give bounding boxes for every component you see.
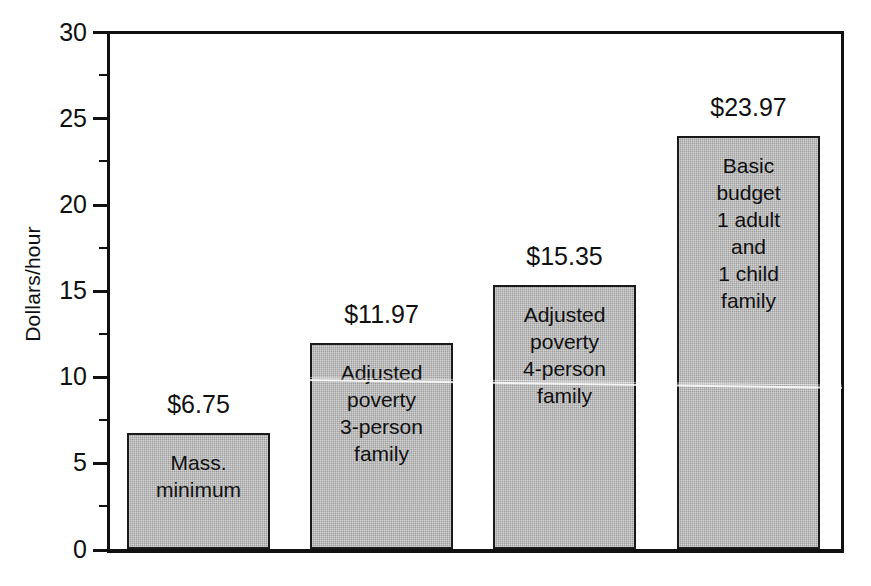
bar-1[interactable]: Mass. minimum [127, 433, 270, 549]
bar-inner-label-2: Adjusted poverty 3-person family [312, 359, 451, 467]
y-tick-label-10: 10 [31, 364, 87, 389]
y-tick-mark-25 [93, 117, 108, 120]
bar-inner-label-4: Basic budget 1 adult and 1 child family [679, 152, 818, 314]
bar-2[interactable]: Adjusted poverty 3-person family [310, 343, 453, 549]
y-tick-label-30: 30 [31, 20, 87, 45]
axis-frame-right [841, 31, 844, 552]
bar-value-label-2: $11.97 [310, 302, 453, 327]
bar-4[interactable]: Basic budget 1 adult and 1 child family [677, 136, 820, 549]
y-tick-mark-15 [93, 290, 108, 293]
bar-value-label-4: $23.97 [677, 95, 820, 120]
bar-inner-label-3: Adjusted poverty 4-person family [495, 301, 634, 409]
bar-value-label-1: $6.75 [127, 392, 270, 417]
y-minor-tick-27_5 [99, 74, 108, 76]
bar-3[interactable]: Adjusted poverty 4-person family [493, 285, 636, 549]
y-tick-mark-20 [93, 204, 108, 207]
bar-inner-label-1: Mass. minimum [129, 449, 268, 503]
y-minor-tick-22_5 [99, 160, 108, 162]
y-minor-tick-17_5 [99, 247, 108, 249]
y-tick-mark-30 [93, 31, 108, 34]
y-tick-label-5: 5 [31, 450, 87, 475]
y-minor-tick-12_5 [99, 333, 108, 335]
bar-value-label-3: $15.35 [493, 244, 636, 269]
y-tick-label-25: 25 [31, 106, 87, 131]
y-minor-tick-2_5 [99, 505, 108, 507]
bar-chart: Dollars/hour 30 25 20 15 10 5 0 $6.75 Ma… [0, 0, 871, 586]
y-tick-mark-0 [93, 549, 108, 552]
y-minor-tick-7_5 [99, 419, 108, 421]
axis-frame-top [107, 31, 844, 34]
axis-frame-bottom [107, 549, 844, 553]
y-tick-label-15: 15 [31, 278, 87, 303]
y-tick-label-20: 20 [31, 192, 87, 217]
y-tick-label-0: 0 [31, 537, 87, 562]
y-tick-mark-5 [93, 462, 108, 465]
y-tick-mark-10 [93, 376, 108, 379]
